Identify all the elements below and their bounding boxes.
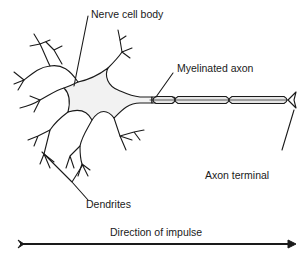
dendrite-upper-right: [108, 52, 122, 68]
dendrite-lower-left: [44, 112, 68, 154]
dendrite-left: [20, 88, 64, 108]
terminal-pointer: [282, 110, 294, 150]
dendrite-lower-middle: [80, 120, 92, 164]
label-axon-terminal: Axon terminal: [205, 170, 269, 181]
neuron-diagram: [0, 0, 303, 262]
label-direction-of-impulse: Direction of impulse: [110, 227, 202, 238]
label-dendrites: Dendrites: [86, 199, 131, 210]
dendrite-lower-right: [114, 118, 120, 136]
label-nerve-cell-body: Nerve cell body: [91, 9, 163, 20]
cell-body: [64, 68, 152, 120]
direction-arrow: [18, 240, 296, 248]
label-myelinated-axon: Myelinated axon: [177, 63, 253, 74]
dendrite-upper-left: [24, 66, 78, 82]
cell-body-pointer: [74, 16, 88, 86]
axon-terminal: [288, 92, 296, 108]
axon-pointer: [156, 73, 173, 97]
